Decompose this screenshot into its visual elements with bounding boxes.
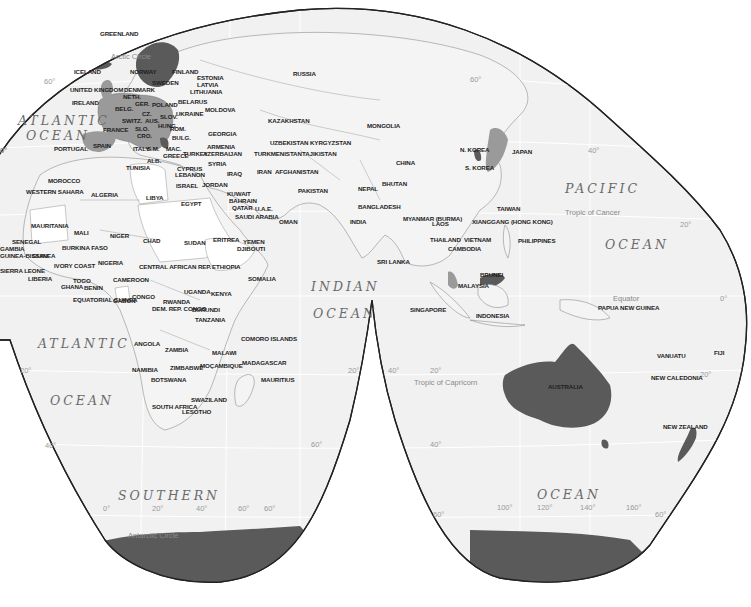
country-label-bhutan: BHUTAN [382,180,407,187]
country-label-georgia: GEORGIA [208,130,237,137]
country-label-qatar: QATAR [232,204,253,211]
country-label-new-caledonia: NEW CALEDONIA [651,374,703,381]
ocean-label-atlantic-north-1: ATLANTIC [18,113,110,128]
country-label-zambia: ZAMBIA [165,346,188,353]
country-label-cro: CRO. [137,132,152,139]
graticule-label: 40° [388,366,399,375]
tropic-of-cancer-label: Tropic of Cancer [565,208,620,217]
country-label-namibia: NAMIBIA [132,366,158,373]
country-label-cz: CZ. [142,110,152,117]
ocean-label-southern-ocean-2: OCEAN [537,487,601,502]
country-label-armenia: ARMENIA [207,143,235,150]
country-label-rwanda: RWANDA [163,298,190,305]
country-label-nigeria: NIGERIA [98,259,123,266]
country-label-algeria: ALGERIA [91,191,118,198]
graticule-label: 60° [264,504,275,513]
arctic-circle-label: Arctic Circle [111,52,151,61]
country-label-denmark: DENMARK [124,86,155,93]
country-label-sudan: SUDAN [184,239,206,246]
country-label-turkmenistan: TURKMENISTAN [254,150,302,157]
graticule-label: 60° [311,440,322,449]
country-label-angola: ANGOLA [134,340,160,347]
country-label-ghana: GHANA [61,283,83,290]
ocean-label-pacific-1: PACIFIC [565,181,640,196]
country-label-lesotho: LESOTHO [182,408,211,415]
country-label-eritrea: ERITREA [213,236,239,243]
graticule-label: 40° [588,146,599,155]
country-label-ukraine: UKRAINE [176,110,204,117]
country-label-moldova: MOLDOVA [205,106,235,113]
country-label-united-kingdom: UNITED KINGDOM [70,86,123,93]
country-label-belarus: BELARUS [178,98,207,105]
country-label-western-sahara: WESTERN SAHARA [26,188,84,195]
country-label-vanuatu: VANUATU [657,352,686,359]
country-label-tajikistan: TAJIKISTAN [302,150,337,157]
ocean-label-indian-1: INDIAN [311,279,380,294]
country-label-bulg: BULG. [172,134,191,141]
country-label-congo: CONGO [132,293,155,300]
country-label-syria: SYRIA [208,160,226,167]
country-label-saudi-arabia: SAUDI ARABIA [235,213,279,220]
country-label-s-m: S.M. [147,145,159,152]
country-label-slo: SLO. [135,125,149,132]
country-label-afghanistan: AFGHANISTAN [275,168,318,175]
country-label-ger: GER. [135,100,150,107]
country-label-vietnam: VIETNAM [464,236,491,243]
country-label-malaysia: MALAYSIA [458,282,489,289]
country-label-malawi: MALAWI [212,349,237,356]
graticule-label: 20° [348,366,359,375]
graticule-label: 40° [45,441,56,450]
country-label-slov: SLOV. [160,113,178,120]
country-label-kyrgyzstan: KYRGYZSTAN [310,139,351,146]
country-label-latvia: LATVIA [197,81,218,88]
country-label-sierra-leone: SIERRA LEONE [0,267,45,274]
tropic-of-capricorn-label: Tropic of Capricorn [414,378,478,387]
ocean-label-atlantic-north-2: OCEAN [26,128,90,143]
country-label-lebanon: LEBANON [175,171,205,178]
graticule-label: 60° [238,504,249,513]
country-label-laos: LAOS [432,220,449,227]
country-label-finland: FINLAND [172,68,198,75]
country-label-n-korea: N. KOREA [460,146,489,153]
antarctic-circle-label: Antarctic Circle [128,531,178,540]
country-label-kenya: KENYA [211,290,232,297]
graticule-label: 0° [103,504,110,513]
country-label-togo: TOGO [73,277,91,284]
graticule-label: 20° [152,504,163,513]
country-label-mongolia: MONGOLIA [367,122,400,129]
country-label-sri-lanka: SRI LANKA [377,258,410,265]
country-label-bangladesh: BANGLADESH [358,203,401,210]
country-label-nepal: NEPAL [358,185,378,192]
country-label-thailand: THAILAND [430,236,461,243]
country-label-libya: LIBYA [146,194,164,201]
country-label-japan: JAPAN [512,148,532,155]
ocean-label-atlantic-south-1: ATLANTIC [38,336,130,351]
country-label-ireland: IRELAND [72,99,99,106]
country-label-somalia: SOMALIA [248,275,276,282]
country-label-australia: AUSTRALIA [548,383,583,390]
graticule-label: 60° [433,510,444,519]
graticule-label: 0° [0,146,7,155]
ocean-label-indian-2: OCEAN [313,306,377,321]
country-label-alb: ALB. [147,157,161,164]
country-label-azerbaijan: AZERBAIJAN [203,150,242,157]
country-label-mali: MALI [74,229,89,236]
country-label-benin: BENIN [84,284,103,291]
country-label-s-korea: S. KOREA [465,164,494,171]
graticule-label: 120° [537,503,553,512]
country-label-taiwan: TAIWAN [497,205,520,212]
country-label-xianggang-hong-kong: XIANGGANG (HONG KONG) [472,218,553,225]
country-label-jordan: JORDAN [202,181,228,188]
country-label-madagascar: MADAGASCAR [242,359,286,366]
country-label-russia: RUSSIA [293,70,316,77]
equator-label: Equator [613,294,639,303]
graticule-label: 40° [196,504,207,513]
country-label-tunisia: TUNISIA [126,164,150,171]
country-label-pakistan: PAKISTAN [298,187,328,194]
country-label-iran: IRAN [257,168,272,175]
country-label-chad: CHAD [143,237,160,244]
country-label-guinea: GUINEA [32,252,55,259]
country-label-brunei: BRUNEI [480,271,503,278]
country-label-iraq: IRAQ [227,170,242,177]
country-label-yemen: YEMEN [243,238,265,245]
